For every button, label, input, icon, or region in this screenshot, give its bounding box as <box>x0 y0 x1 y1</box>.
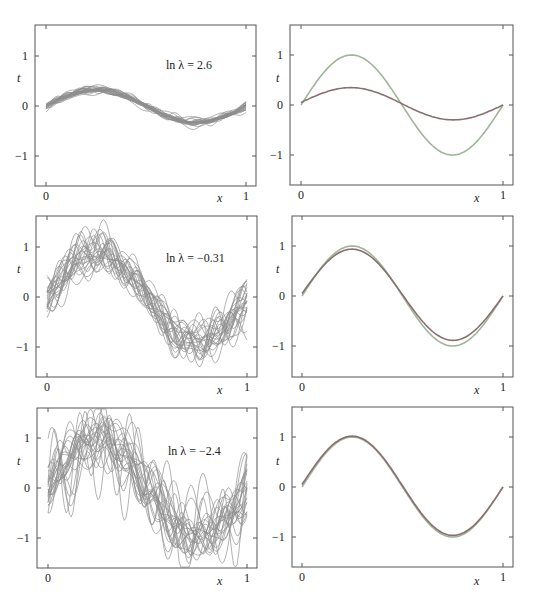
x-tick-label: 0 <box>44 380 50 394</box>
y-tick-label: 0 <box>279 289 285 303</box>
y-tick-label: 1 <box>279 430 285 444</box>
y-axis-label: t <box>276 454 280 468</box>
average-fit-curve <box>301 88 503 120</box>
y-tick-label: 1 <box>277 48 283 62</box>
truth-and-average-curves <box>301 55 503 155</box>
x-axis-label: x <box>473 574 480 588</box>
axis-ticks: 0110−1 <box>16 216 257 394</box>
lambda-annotation: ln λ = −0.31 <box>166 251 225 265</box>
y-tick-label: −1 <box>272 530 285 544</box>
y-tick-label: −1 <box>15 149 28 163</box>
x-axis-label: x <box>216 574 223 588</box>
x-tick-label: 0 <box>45 571 51 585</box>
average-fit-curve <box>302 249 503 340</box>
y-tick-label: 0 <box>279 480 285 494</box>
truth-and-average-curves <box>302 436 503 537</box>
panel-bottom-right: t x 0110−1 <box>272 407 513 588</box>
axis-ticks: 0110−1 <box>272 407 513 584</box>
x-axis-label: x <box>473 383 480 397</box>
x-tick-label: 1 <box>243 189 249 203</box>
y-tick-label: −1 <box>16 340 29 354</box>
x-tick-label: 1 <box>500 380 506 394</box>
x-axis-label: x <box>216 191 223 205</box>
y-tick-label: 0 <box>23 290 29 304</box>
y-axis-label: t <box>17 454 21 468</box>
y-tick-label: −1 <box>272 339 285 353</box>
fit-curve <box>46 91 246 130</box>
x-tick-label: 0 <box>298 188 304 202</box>
x-tick-label: 0 <box>299 380 305 394</box>
y-axis-label: t <box>17 71 21 85</box>
panel-top-left: ln λ = 2.6 t x 0110−1 <box>15 25 256 205</box>
y-tick-label: 1 <box>22 49 28 63</box>
x-tick-label: 0 <box>43 189 49 203</box>
y-axis-label: t <box>276 71 280 85</box>
fit-curves <box>48 409 247 567</box>
x-tick-label: 1 <box>500 188 506 202</box>
y-tick-label: 0 <box>277 98 283 112</box>
y-tick-label: 1 <box>23 240 29 254</box>
true-sine-curve <box>301 55 503 155</box>
y-tick-label: 0 <box>24 481 30 495</box>
axis-ticks: 0110−1 <box>272 216 513 394</box>
panel-bottom-left: ln λ = −2.4 t x 0110−1 <box>17 408 257 588</box>
y-tick-label: −1 <box>17 531 30 545</box>
panel-top-right: t x 0110−1 <box>270 25 513 205</box>
fit-curves <box>46 85 246 130</box>
y-tick-label: 0 <box>22 99 28 113</box>
axis-ticks: 0110−1 <box>15 25 256 203</box>
bias-variance-figure: ln λ = 2.6 t x 0110−1 t x 0110−1 ln λ = … <box>0 0 536 601</box>
x-axis-label: x <box>216 383 223 397</box>
x-tick-label: 1 <box>244 380 250 394</box>
y-tick-label: −1 <box>270 148 283 162</box>
lambda-annotation: ln λ = 2.6 <box>166 58 212 72</box>
y-tick-label: 1 <box>24 431 30 445</box>
y-tick-label: 1 <box>279 239 285 253</box>
truth-and-average-curves <box>302 246 503 346</box>
panel-middle-right: t x 0110−1 <box>272 216 513 397</box>
x-tick-label: 0 <box>299 570 305 584</box>
panel-middle-left: ln λ = −0.31 t x 0110−1 <box>16 216 257 397</box>
lambda-annotation: ln λ = −2.4 <box>168 444 221 458</box>
x-tick-label: 1 <box>500 570 506 584</box>
average-fit-curve <box>302 436 503 535</box>
x-tick-label: 1 <box>244 571 250 585</box>
fit-curves <box>47 220 247 367</box>
y-axis-label: t <box>17 262 21 276</box>
x-axis-label: x <box>473 191 480 205</box>
axis-ticks: 0110−1 <box>270 25 513 202</box>
y-axis-label: t <box>276 262 280 276</box>
